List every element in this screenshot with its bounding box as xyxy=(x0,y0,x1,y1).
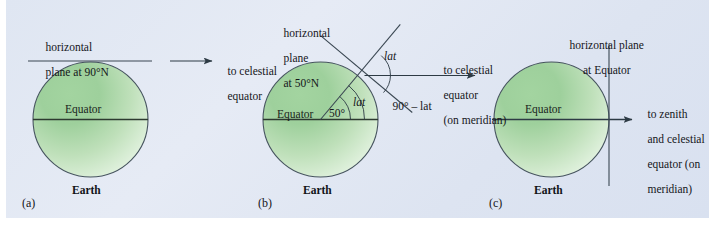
horizontal-plane-label-a-line1: horizontal xyxy=(46,41,93,53)
horizontal-plane-label-a-line2: plane at 90°N xyxy=(46,66,109,78)
horizontal-plane-label-b-line3: at 50°N xyxy=(284,77,320,89)
horizontal-plane-label-b: horizontal plane at 50°N xyxy=(272,14,330,102)
horizontal-plane-label-a: horizontal plane at 90°N xyxy=(34,28,109,91)
angle-label-lat-upper-b: lat xyxy=(384,50,396,63)
angle-label-50deg-b: 50° xyxy=(329,107,345,120)
celestial-equator-label-b: to celestial equator (on meridian) xyxy=(432,51,506,139)
celestial-equator-label-a: to celestial equator xyxy=(216,52,277,115)
earth-label-c: Earth xyxy=(534,184,563,196)
angle-label-complement-b: 90° – lat xyxy=(381,87,432,125)
angle-label-lat-inner-b: lat xyxy=(353,96,365,109)
panel-letter-a: (a) xyxy=(22,196,35,211)
horizontal-plane-label-c-line2: at Equator xyxy=(583,64,631,76)
zenith-direction-label-c-line2: and celestial xyxy=(648,133,705,145)
earth-label-b: Earth xyxy=(303,184,332,196)
equator-label-c: Equator xyxy=(525,103,561,115)
panel-letter-b: (b) xyxy=(258,196,272,211)
figure-root: horizontal plane at 90°N to celestial eq… xyxy=(0,0,715,229)
celestial-equator-label-b-line1: to celestial xyxy=(444,64,494,76)
equator-label-a: Equator xyxy=(65,103,101,115)
horizontal-plane-label-b-line1: horizontal xyxy=(284,27,331,39)
celestial-equator-label-b-line3: (on meridian) xyxy=(444,114,507,126)
zenith-direction-label-c: to zenith and celestial equator (on meri… xyxy=(636,95,705,208)
horizontal-plane-label-b-line2: plane xyxy=(284,52,309,64)
horizontal-plane-label-c: horizontal plane at Equator xyxy=(541,26,661,89)
panel-letter-c: (c) xyxy=(489,196,502,211)
angle-label-complement-b-text: 90° – lat xyxy=(393,100,432,112)
zenith-direction-label-c-line4: meridian) xyxy=(648,183,693,195)
celestial-equator-label-a-line1: to celestial xyxy=(228,65,278,77)
zenith-direction-label-c-line3: equator (on xyxy=(648,158,701,170)
celestial-equator-label-a-line2: equator xyxy=(228,90,262,102)
horizontal-plane-label-c-line1: horizontal plane xyxy=(570,39,644,51)
zenith-direction-label-c-line1: to zenith xyxy=(648,108,688,120)
equator-label-b: Equator xyxy=(277,108,313,120)
earth-label-a: Earth xyxy=(72,184,101,196)
celestial-equator-label-b-line2: equator xyxy=(444,89,478,101)
